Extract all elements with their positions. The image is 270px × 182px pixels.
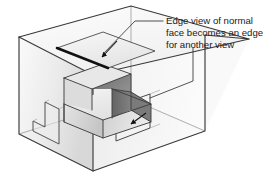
callout-line-2: face becomes an edge xyxy=(166,27,263,38)
callout-line-1: Edge view of normal xyxy=(166,15,253,26)
edge-view-callout: Edge view of normal face becomes an edge… xyxy=(166,15,263,50)
diagram-canvas: Edge view of normal face becomes an edge… xyxy=(0,0,270,182)
callout-line-3: for another view xyxy=(166,39,234,50)
